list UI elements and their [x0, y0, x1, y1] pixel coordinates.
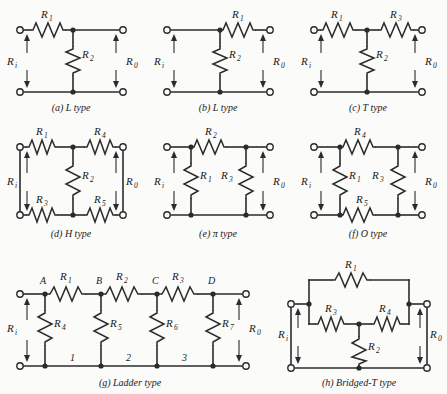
resistor-sub-r2: 2	[124, 276, 128, 285]
port-label-ro: R	[125, 175, 133, 187]
resistor-label-r4: R	[378, 302, 386, 314]
loop-label-1: 1	[70, 352, 75, 363]
port-sub-ro: 0	[281, 61, 285, 70]
resistor-sub-r1: 1	[353, 264, 357, 273]
circuit-f-o-type: R 4 R 1 R 3 R 5 R i R 0 (f) O type	[294, 125, 447, 245]
port-sub-ri: i	[15, 181, 17, 190]
resistor-label-r1: R	[199, 169, 207, 181]
port-sub-ro: 0	[257, 328, 261, 337]
caption-a: (a) L type	[52, 102, 91, 114]
resistor-sub-r7: 7	[230, 323, 234, 332]
resistor-label-r2: R	[204, 125, 212, 137]
resistor-label-r4: R	[353, 125, 361, 137]
circuit-figure-sheet: R 1 R 2 R i R 0 (a) L type	[0, 0, 447, 394]
resistor-label-r3: R	[35, 193, 43, 205]
resistor-label-r2: R	[375, 48, 383, 60]
resistor-sub-r1: 1	[240, 14, 244, 23]
resistor-sub-r4: 4	[62, 323, 66, 332]
circuit-h-bridged-t-type: R 1 R 3 R 4 R 2 R i R 0 (h) Bridged-T ty…	[273, 258, 447, 394]
resistor-sub-r1: 1	[49, 14, 53, 23]
caption-e: (e) π type	[199, 228, 237, 240]
port-sub-ri: i	[162, 61, 164, 70]
resistor-sub-r4: 4	[387, 308, 391, 317]
resistor-label-r6: R	[165, 317, 173, 329]
resistor-label-r1: R	[231, 8, 239, 20]
resistor-sub-r3: 3	[397, 14, 402, 23]
port-sub-ro: 0	[433, 181, 437, 190]
resistor-sub-r1: 1	[339, 14, 343, 23]
port-sub-ri: i	[162, 181, 164, 190]
resistor-sub-r3: 3	[332, 308, 337, 317]
resistor-label-r1: R	[330, 8, 338, 20]
circuit-c-t-type: R 1 R 3 R 2 R i R 0 (c) T type	[294, 8, 447, 118]
caption-h: (h) Bridged-T type	[322, 377, 397, 389]
circuit-a-l-type: R 1 R 2 R i R 0 (a) L type	[0, 8, 145, 118]
resistor-label-r4: R	[53, 317, 61, 329]
resistor-label-r2: R	[367, 340, 375, 352]
circuit-e-pi-type: R 2 R 1 R 3 R i R 0 (e) π type	[147, 125, 292, 245]
resistor-label-r2: R	[81, 169, 89, 181]
resistor-sub-r5: 5	[364, 199, 368, 208]
port-label-ri: R	[300, 175, 308, 187]
port-sub-ri: i	[309, 181, 311, 190]
caption-f: (f) O type	[349, 228, 388, 240]
resistor-sub-r2: 2	[237, 54, 241, 63]
circuit-g-ladder-type: A B C D R 1 R 2 R 3 R 4 R 5 R 6 R 7 1 2 …	[0, 258, 272, 394]
resistor-label-r3: R	[371, 169, 379, 181]
port-sub-ro: 0	[134, 181, 138, 190]
node-label-c: C	[152, 275, 159, 286]
resistor-label-r1: R	[344, 258, 352, 270]
port-label-ro: R	[424, 55, 432, 67]
port-label-ri: R	[6, 322, 14, 334]
resistor-sub-r1: 1	[44, 131, 48, 140]
port-sub-ro: 0	[134, 61, 138, 70]
resistor-label-r5: R	[109, 317, 117, 329]
resistor-sub-r3: 3	[43, 199, 48, 208]
port-sub-ro: 0	[433, 61, 437, 70]
resistor-label-r2: R	[228, 48, 236, 60]
resistor-sub-r1: 1	[68, 276, 72, 285]
loop-label-2: 2	[126, 352, 131, 363]
resistor-label-r2: R	[115, 270, 123, 282]
resistor-sub-r2: 2	[376, 346, 380, 355]
resistor-sub-r2: 2	[213, 131, 217, 140]
port-label-ri: R	[6, 55, 14, 67]
node-label-d: D	[207, 275, 216, 286]
port-label-ro: R	[429, 328, 437, 340]
resistor-label-r5: R	[355, 193, 363, 205]
resistor-label-r2: R	[81, 48, 89, 60]
resistor-sub-r3: 3	[379, 175, 384, 184]
caption-b: (b) L type	[199, 102, 238, 114]
caption-g: (g) Ladder type	[99, 377, 162, 389]
resistor-label-r1: R	[59, 270, 67, 282]
node-label-b: B	[96, 275, 102, 286]
resistor-sub-r2: 2	[90, 175, 94, 184]
resistor-sub-r4: 4	[362, 131, 366, 140]
port-sub-ro: 0	[281, 181, 285, 190]
port-sub-ri: i	[15, 328, 17, 337]
resistor-sub-r2: 2	[384, 54, 388, 63]
resistor-label-r4: R	[93, 125, 101, 137]
resistor-label-r3: R	[171, 270, 179, 282]
resistor-sub-r5: 5	[102, 199, 106, 208]
resistor-label-r5: R	[93, 193, 101, 205]
resistor-label-r3: R	[389, 8, 397, 20]
resistor-sub-r1: 1	[208, 175, 212, 184]
circuit-b-l-type: R 1 R 2 R i R 0 (b) L type	[147, 8, 292, 118]
resistor-label-r3: R	[324, 302, 332, 314]
caption-d: (d) H type	[51, 228, 92, 240]
resistor-label-r7: R	[221, 317, 229, 329]
loop-label-3: 3	[181, 352, 187, 363]
port-label-ri: R	[300, 55, 308, 67]
resistor-sub-r3: 3	[179, 276, 184, 285]
port-label-ro: R	[125, 55, 133, 67]
resistor-sub-r6: 6	[174, 323, 178, 332]
caption-c: (c) T type	[349, 102, 388, 114]
resistor-sub-r2: 2	[90, 54, 94, 63]
circuit-d-h-type: R 1 R 4 R 2 R 3 R 5 R i R 0 (d) H type	[0, 125, 145, 245]
resistor-sub-r5: 5	[118, 323, 122, 332]
port-sub-ri: i	[15, 61, 17, 70]
resistor-sub-r3: 3	[228, 175, 233, 184]
node-label-a: A	[39, 275, 47, 286]
resistor-label-r1: R	[40, 8, 48, 20]
